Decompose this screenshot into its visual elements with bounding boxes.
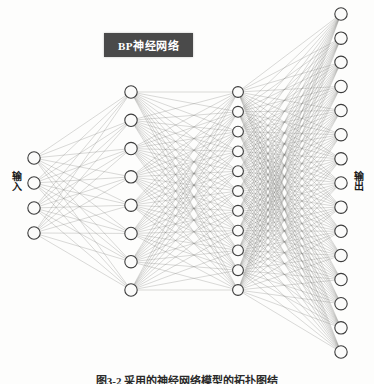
network-edge (136, 115, 233, 174)
network-edge (137, 263, 233, 288)
network-edge (137, 122, 233, 150)
network-node-hidden-1 (125, 86, 137, 98)
network-diagram (0, 0, 374, 384)
network-node-output-4 (335, 80, 347, 92)
network-node-output-5 (335, 104, 347, 116)
network-edge (243, 253, 336, 301)
network-node-output-1 (335, 8, 347, 20)
network-edge (40, 159, 125, 175)
network-edge (134, 97, 235, 257)
network-edge (242, 18, 336, 89)
diagram-title-box: BP神经网络 (104, 33, 193, 57)
network-node-output-6 (335, 129, 347, 141)
network-node-hidden-3 (125, 142, 137, 154)
network-edge (243, 65, 336, 109)
network-edge (136, 95, 233, 146)
network-node-hidden-2 (233, 106, 244, 117)
network-edge (40, 123, 125, 156)
network-edge (39, 96, 127, 179)
network-node-output-15 (335, 346, 347, 358)
network-edge (243, 207, 334, 210)
network-edge (137, 134, 233, 175)
network-node-hidden-8 (233, 225, 244, 236)
network-edge (38, 163, 128, 285)
network-edge (137, 178, 233, 191)
network-edge (240, 92, 338, 285)
network-edge (38, 97, 127, 203)
network-node-hidden-9 (233, 245, 244, 256)
network-edge (40, 149, 125, 157)
network-edge (242, 234, 337, 323)
network-node-output-8 (335, 177, 347, 189)
network-edge (39, 212, 127, 286)
network-edges (38, 18, 339, 349)
network-node-input-3 (28, 202, 40, 214)
network-edge (243, 183, 334, 190)
output-layer-label: 输出 (352, 172, 366, 192)
network-edge (137, 150, 233, 170)
network-node-hidden-5 (125, 199, 137, 211)
network-edge (134, 97, 235, 285)
network-edge (241, 19, 339, 206)
network-edge (241, 43, 338, 206)
network-edge (134, 126, 235, 286)
network-edge (137, 252, 233, 288)
network-node-output-12 (335, 273, 347, 285)
network-node-output-13 (335, 298, 347, 310)
network-edge (243, 280, 334, 289)
bp-neural-network-figure: BP神经网络 输入 输出 图3-2 采用的神经网络模型的拓扑图结 (0, 0, 374, 384)
network-node-input-4 (28, 227, 40, 239)
network-edge (243, 291, 335, 303)
network-node-output-9 (335, 201, 347, 213)
network-edge (39, 162, 126, 230)
network-edge (135, 181, 234, 286)
network-edge (137, 208, 233, 249)
network-edge (135, 96, 234, 201)
network-node-hidden-11 (233, 285, 244, 296)
network-edge (40, 151, 125, 181)
network-node-hidden-8 (125, 284, 137, 296)
network-edge (136, 236, 233, 287)
network-node-hidden-2 (125, 114, 137, 126)
network-edge (241, 136, 338, 298)
network-node-output-10 (335, 225, 347, 237)
network-edge (136, 214, 234, 286)
network-node-hidden-6 (233, 186, 244, 197)
diagram-title-label: BP神经网络 (118, 37, 179, 53)
network-edge (241, 19, 337, 147)
network-node-input-2 (28, 177, 40, 189)
network-edge (137, 94, 233, 130)
network-edge (137, 93, 233, 118)
network-node-hidden-4 (233, 146, 244, 157)
network-edge (40, 235, 125, 260)
figure-caption: 图3-2 采用的神经网络模型的拓扑图结 (0, 372, 374, 384)
network-edge (137, 271, 233, 289)
network-edge (241, 235, 336, 348)
network-edge (243, 257, 335, 288)
input-layer-label: 输入 (10, 172, 24, 192)
network-edge (40, 210, 125, 232)
network-edge (242, 67, 337, 167)
network-edge (137, 93, 233, 111)
network-edge (136, 96, 234, 168)
network-edge (241, 44, 339, 226)
network-edge (243, 111, 334, 112)
network-edge (40, 184, 125, 203)
network-edge (40, 161, 126, 203)
network-edge (39, 211, 125, 259)
network-edge (39, 236, 125, 287)
network-edge (39, 152, 125, 205)
network-edge (40, 179, 125, 206)
network-node-hidden-1 (233, 87, 244, 98)
network-node-output-7 (335, 153, 347, 165)
network-node-input-1 (28, 152, 40, 164)
network-edge (240, 68, 338, 266)
network-edge (243, 234, 336, 287)
network-node-hidden-4 (125, 171, 137, 183)
network-node-hidden-5 (233, 166, 244, 177)
network-node-hidden-6 (125, 227, 137, 239)
network-edge (39, 124, 126, 180)
network-edge (39, 187, 126, 258)
network-edge (136, 208, 233, 267)
network-node-output-2 (335, 32, 347, 44)
